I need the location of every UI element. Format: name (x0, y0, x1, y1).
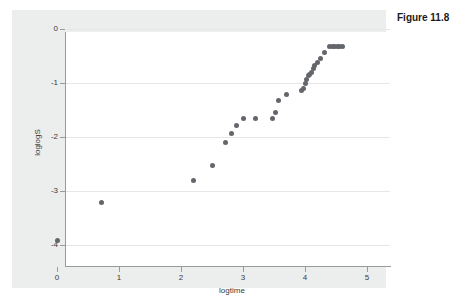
data-point (210, 163, 215, 168)
x-axis-line (65, 266, 391, 267)
y-tick-label: 0 (36, 24, 58, 33)
y-tick-label: -1 (36, 78, 58, 87)
data-point (241, 116, 246, 121)
figure-caption: Figure 11.8 (397, 12, 449, 23)
y-tick-mark (60, 83, 65, 84)
y-axis-line (65, 32, 66, 267)
x-tick-label: 0 (47, 273, 67, 282)
y-tick-mark (60, 245, 65, 246)
gridline-horizontal (66, 29, 390, 30)
x-tick-mark (367, 267, 368, 272)
x-tick-label: 4 (295, 273, 315, 282)
y-tick-label: -3 (36, 186, 58, 195)
data-point (270, 116, 275, 121)
y-tick-mark (60, 191, 65, 192)
gridline-horizontal (66, 191, 390, 192)
x-tick-mark (57, 267, 58, 272)
x-tick-mark (181, 267, 182, 272)
x-tick-label: 3 (233, 273, 253, 282)
figure-frame: 0-1-2-3-4 012345 loglogS logtime (12, 10, 386, 288)
y-tick-mark (60, 137, 65, 138)
gridline-horizontal (66, 83, 390, 84)
data-point (273, 110, 278, 115)
x-tick-label: 5 (357, 273, 377, 282)
data-point (55, 238, 60, 243)
data-point (301, 86, 306, 91)
x-tick-mark (243, 267, 244, 272)
plot-area (66, 32, 390, 266)
data-point (234, 123, 239, 128)
x-tick-mark (305, 267, 306, 272)
x-tick-label: 1 (109, 273, 129, 282)
y-tick-mark (60, 29, 65, 30)
y-axis-title: loglogS (33, 113, 42, 173)
data-point (340, 44, 345, 49)
gridline-horizontal (66, 245, 390, 246)
gridline-horizontal (66, 137, 390, 138)
data-point (253, 116, 258, 121)
x-tick-mark (119, 267, 120, 272)
x-axis-title: logtime (172, 286, 292, 295)
x-tick-label: 2 (171, 273, 191, 282)
